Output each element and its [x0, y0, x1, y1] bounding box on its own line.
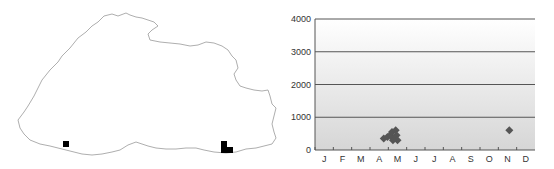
- record-marker: [221, 147, 227, 153]
- y-tick-label: 4000: [291, 14, 311, 24]
- country-outline-map: [0, 0, 290, 169]
- country-outline: [18, 13, 276, 155]
- scatter-chart: 01000200030004000 JFMAMJJASOND: [290, 0, 554, 169]
- x-tick-label: J: [322, 154, 327, 164]
- y-tick-labels: 01000200030004000: [291, 14, 311, 155]
- record-marker: [227, 147, 233, 153]
- record-marker: [63, 141, 69, 147]
- elevation-by-month-chart: 01000200030004000 JFMAMJJASOND: [290, 0, 554, 169]
- x-tick-label: F: [340, 154, 346, 164]
- y-tick-label: 3000: [291, 47, 311, 57]
- record-markers: [63, 141, 233, 153]
- y-tick-label: 1000: [291, 112, 311, 122]
- y-tick-label: 0: [306, 145, 311, 155]
- distribution-map: [0, 0, 290, 169]
- x-tick-label: O: [486, 154, 493, 164]
- x-tick-label: M: [357, 154, 365, 164]
- x-tick-label: J: [414, 154, 419, 164]
- x-tick-label: S: [468, 154, 474, 164]
- x-tick-label: D: [523, 154, 530, 164]
- y-tick-label: 2000: [291, 80, 311, 90]
- x-tick-label: A: [449, 154, 455, 164]
- x-tick-label: A: [376, 154, 382, 164]
- x-tick-label: M: [394, 154, 402, 164]
- x-tick-label: J: [432, 154, 437, 164]
- x-tick-label: N: [504, 154, 511, 164]
- record-marker: [221, 141, 227, 147]
